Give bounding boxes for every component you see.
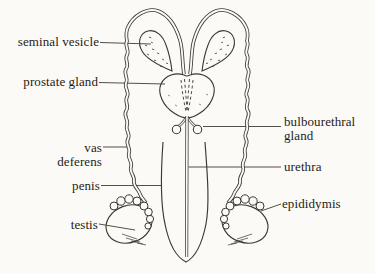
penis-outline bbox=[161, 142, 208, 262]
label-seminal-vesicle: seminal vesicle bbox=[6, 35, 99, 49]
prostate-shape bbox=[160, 74, 214, 118]
label-vas-line1: vas bbox=[6, 141, 102, 155]
bulbourethral-left-gland bbox=[172, 118, 186, 134]
label-prostate-gland: prostate gland bbox=[6, 75, 98, 89]
seminal-vesicle-right-shape bbox=[202, 31, 234, 71]
label-bulbourethral-line1: bulbourethral bbox=[284, 115, 355, 129]
bulbourethral-right-gland bbox=[188, 118, 202, 134]
label-epididymis: epididymis bbox=[282, 197, 341, 211]
label-vas-deferens: vas deferens bbox=[6, 141, 102, 169]
label-vas-line2: deferens bbox=[6, 155, 102, 169]
bulbourethral-left-gland-shape bbox=[172, 125, 180, 133]
label-bulbourethral-line2: gland bbox=[284, 129, 355, 143]
label-testis: testis bbox=[6, 218, 98, 232]
label-urethra: urethra bbox=[284, 160, 322, 174]
label-bulbourethral-gland: bulbourethral gland bbox=[284, 115, 355, 143]
leader-prostate-gland bbox=[99, 83, 165, 85]
seminal-vesicle-left-shape bbox=[140, 31, 172, 71]
diagram-page: seminal vesicle prostate gland bulbouret… bbox=[0, 0, 375, 274]
bulbourethral-right-gland-shape bbox=[193, 125, 201, 133]
label-penis: penis bbox=[6, 179, 100, 193]
